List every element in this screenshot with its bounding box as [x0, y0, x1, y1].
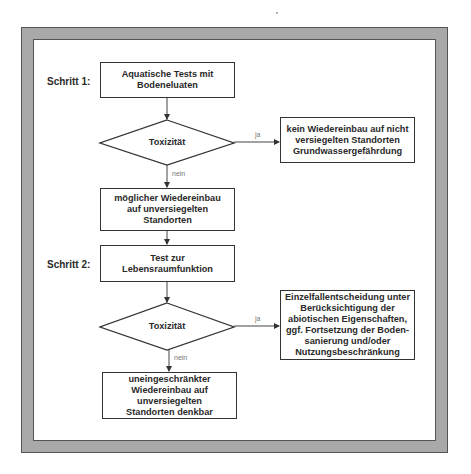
- edge-label-no-1: nein: [172, 170, 185, 177]
- edge-label-yes-2: ja: [255, 315, 260, 322]
- decision-1-label: Toxizität: [120, 137, 214, 147]
- node-case-decision: Einzelfallentscheidung unter Berücksicht…: [280, 290, 415, 360]
- node-aquatic-tests: Aquatische Tests mit Bodeneluaten: [100, 62, 235, 98]
- step-2-label: Schritt 2:: [47, 259, 90, 270]
- edge-label-no-2: nein: [174, 354, 187, 361]
- decision-2-label: Toxizität: [120, 321, 214, 331]
- node-habitat-test: Test zur Lebensraumfunktion: [100, 245, 235, 282]
- edge-label-yes-1: ja: [255, 131, 260, 138]
- step-1-label: Schritt 1:: [47, 76, 90, 87]
- node-no-reinstallation: kein Wiedereinbau auf nicht versiegelten…: [280, 117, 415, 163]
- node-possible-reinstallation: möglicher Wiedereinbau auf unversiegelte…: [100, 188, 235, 231]
- node-unrestricted-reinstallation: uneingeschränkter Wiedereinbau auf unver…: [102, 372, 237, 419]
